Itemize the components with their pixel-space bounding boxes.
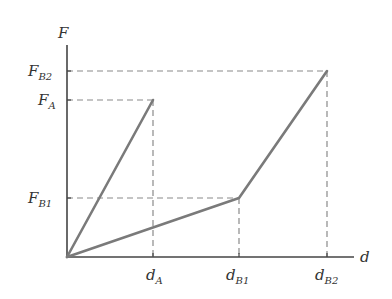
curve-a [67,100,153,257]
curves [67,71,327,257]
x-axis-label: d [360,248,370,266]
x-tick-db2: dB2 [315,266,338,286]
tick-marks [67,71,327,257]
y-tick-fb1: FB1 [27,189,52,209]
y-tick-fb2: FB2 [27,62,52,82]
axes [67,45,354,257]
x-tick-da: dA [146,266,163,286]
curve-b [67,71,327,257]
x-tick-db1: dB1 [226,266,249,286]
guide-lines [67,71,327,257]
y-tick-fa: FA [37,91,56,111]
force-displacement-diagram: F d FB2 FA FB1 dA dB1 dB2 [0,0,392,299]
y-axis-label: F [57,24,69,42]
